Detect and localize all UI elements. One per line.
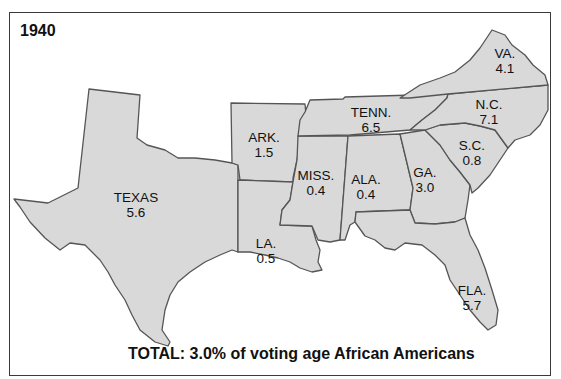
state-value: 6.5 <box>351 120 392 135</box>
state-value: 5.6 <box>114 205 158 220</box>
state-value: 1.5 <box>248 145 280 160</box>
state-label-mississippi: MISS. 0.4 <box>298 168 335 198</box>
state-label-virginia: VA. 4.1 <box>495 46 516 76</box>
state-label-arkansas: ARK. 1.5 <box>248 130 280 160</box>
state-value: 7.1 <box>476 112 503 127</box>
state-value: 5.7 <box>458 298 487 313</box>
state-name: VA. <box>495 46 516 61</box>
state-name: ALA. <box>351 172 380 187</box>
state-value: 0.5 <box>256 251 276 266</box>
state-label-florida: FLA. 5.7 <box>458 283 487 313</box>
state-name: GA. <box>413 165 436 180</box>
state-name: MISS. <box>298 168 335 183</box>
state-value: 0.4 <box>351 187 380 202</box>
state-value: 3.0 <box>413 180 436 195</box>
state-name: ARK. <box>248 130 280 145</box>
state-name: TEXAS <box>114 190 158 205</box>
state-label-alabama: ALA. 0.4 <box>351 172 380 202</box>
state-label-north-carolina: N.C. 7.1 <box>476 97 503 127</box>
state-value: 0.8 <box>459 153 485 168</box>
state-label-louisiana: LA. 0.5 <box>256 236 276 266</box>
state-value: 0.4 <box>298 183 335 198</box>
southern-states-map <box>0 0 561 379</box>
state-label-tennessee: TENN. 6.5 <box>351 105 392 135</box>
state-name: LA. <box>256 236 276 251</box>
state-name: TENN. <box>351 105 392 120</box>
state-name: FLA. <box>458 283 487 298</box>
state-label-south-carolina: S.C. 0.8 <box>459 138 485 168</box>
total-caption: TOTAL: 3.0% of voting age African Americ… <box>128 345 475 363</box>
state-value: 4.1 <box>495 61 516 76</box>
state-label-georgia: GA. 3.0 <box>413 165 436 195</box>
state-label-texas: TEXAS 5.6 <box>114 190 158 220</box>
map-year-title: 1940 <box>20 22 56 40</box>
state-name: N.C. <box>476 97 503 112</box>
state-name: S.C. <box>459 138 485 153</box>
